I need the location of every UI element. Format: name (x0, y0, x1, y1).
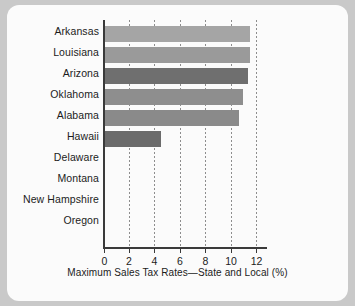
plot-area: 0 2 4 6 8 10 12 (103, 20, 263, 247)
xtick-mark-4 (154, 249, 155, 253)
category-axis-labels: Arkansas Louisiana Arizona Oklahoma Alab… (7, 21, 99, 233)
xtick-mark-0 (104, 249, 105, 253)
bar-arkansas (105, 26, 250, 42)
xtick-mark-12 (256, 249, 257, 253)
xtick-mark-2 (129, 249, 130, 253)
category-label-oregon: Oregon (7, 215, 99, 226)
category-label-arizona: Arizona (7, 68, 99, 79)
xtick-label-8: 8 (196, 255, 216, 267)
bar-chart: Arkansas Louisiana Arizona Oklahoma Alab… (7, 5, 348, 301)
xtick-mark-6 (180, 249, 181, 253)
category-label-new-hampshire: New Hampshire (7, 194, 99, 205)
xtick-label-4: 4 (145, 255, 165, 267)
xtick-mark-8 (205, 249, 206, 253)
bar-louisiana (105, 47, 250, 63)
category-label-hawaii: Hawaii (7, 131, 99, 142)
xtick-label-12: 12 (247, 255, 267, 267)
gridline-12 (256, 20, 257, 247)
category-label-alabama: Alabama (7, 110, 99, 121)
xtick-mark-10 (231, 249, 232, 253)
category-label-montana: Montana (7, 173, 99, 184)
xtick-label-2: 2 (119, 255, 139, 267)
xtick-label-0: 0 (95, 255, 115, 267)
category-label-oklahoma: Oklahoma (7, 89, 99, 100)
xtick-label-10: 10 (221, 255, 241, 267)
bar-arizona (105, 68, 248, 84)
bar-oklahoma (105, 89, 243, 105)
category-label-louisiana: Louisiana (7, 47, 99, 58)
category-label-delaware: Delaware (7, 152, 99, 163)
chart-card: Arkansas Louisiana Arizona Oklahoma Alab… (7, 5, 348, 301)
y-axis-line (103, 20, 105, 247)
category-label-arkansas: Arkansas (7, 26, 99, 37)
x-axis-title: Maximum Sales Tax Rates—State and Local … (7, 267, 348, 278)
bar-alabama (105, 110, 239, 126)
xtick-label-6: 6 (170, 255, 190, 267)
bar-hawaii (105, 131, 161, 147)
